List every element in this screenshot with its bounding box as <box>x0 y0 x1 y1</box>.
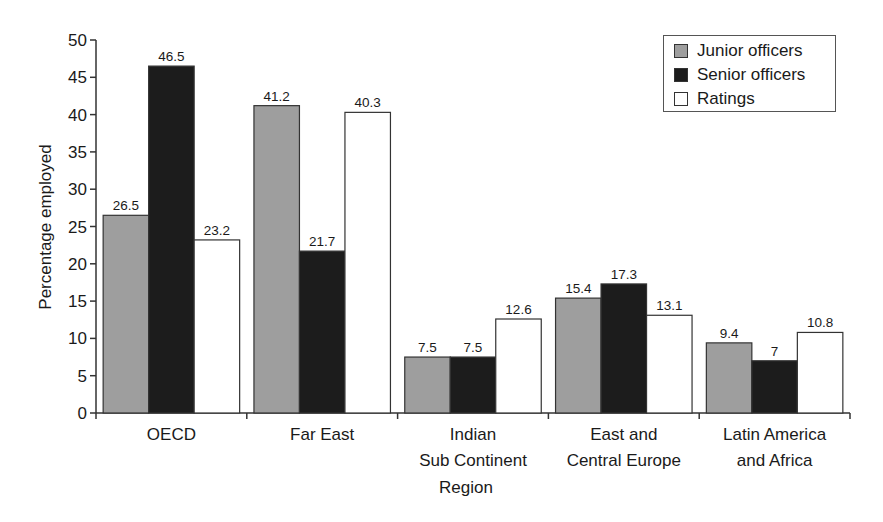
legend-label: Ratings <box>697 89 755 109</box>
bar-value-label: 41.2 <box>264 89 290 104</box>
legend-item-junior-officers: Junior officers <box>674 41 803 61</box>
bar-value-label: 21.7 <box>309 234 335 249</box>
bar-value-label: 15.4 <box>565 281 592 296</box>
y-tick-label: 15 <box>68 292 87 311</box>
y-tick-label: 45 <box>68 68 87 87</box>
y-tick-label: 5 <box>78 367 87 386</box>
bar-ratings <box>194 240 240 413</box>
x-axis <box>96 413 850 419</box>
bar-ratings <box>797 332 843 413</box>
legend-label: Junior officers <box>697 41 803 61</box>
bar-value-label: 23.2 <box>204 223 230 238</box>
bar-value-label: 12.6 <box>505 302 531 317</box>
category-label: Far East <box>290 425 355 444</box>
bar-value-label: 17.3 <box>611 267 637 282</box>
bar-value-label: 40.3 <box>355 95 381 110</box>
bar-senior-officers <box>299 251 345 413</box>
bar-junior-officers <box>706 343 752 413</box>
y-tick-label: 20 <box>68 255 87 274</box>
y-tick-label: 50 <box>68 31 87 50</box>
bar-senior-officers <box>450 357 496 413</box>
y-tick-label: 10 <box>68 329 87 348</box>
bar-junior-officers <box>103 215 148 413</box>
category-label: Latin America <box>723 425 827 444</box>
legend-item-ratings: Ratings <box>674 89 755 109</box>
bars <box>103 66 843 413</box>
legend-item-senior-officers: Senior officers <box>674 65 805 85</box>
category-label: Central Europe <box>567 451 681 470</box>
legend-label: Senior officers <box>697 65 805 85</box>
bar-senior-officers <box>149 66 195 413</box>
y-tick-label: 40 <box>68 106 87 125</box>
bar-value-label: 13.1 <box>656 298 682 313</box>
category-labels: OECDFar EastIndianSub ContinentEast andC… <box>147 425 827 470</box>
category-label: Indian <box>450 425 496 444</box>
bar-ratings <box>345 112 391 413</box>
y-axis: 05101520253035404550 <box>68 31 96 423</box>
bar-junior-officers <box>556 298 602 413</box>
category-label: Sub Continent <box>419 451 527 470</box>
bar-value-label: 7.5 <box>464 340 483 355</box>
bar-junior-officers <box>254 106 300 413</box>
legend-swatch-junior-icon <box>674 44 688 58</box>
category-label: East and <box>590 425 657 444</box>
bar-senior-officers <box>752 361 798 413</box>
bar-value-label: 10.8 <box>807 315 833 330</box>
y-tick-label: 25 <box>68 218 87 237</box>
bar-value-label: 26.5 <box>113 198 139 213</box>
bar-value-label: 46.5 <box>158 49 184 64</box>
bar-value-label: 9.4 <box>720 326 739 341</box>
bar-ratings <box>647 315 693 413</box>
bar-junior-officers <box>405 357 451 413</box>
bar-ratings <box>496 319 542 413</box>
category-label: and Africa <box>737 451 813 470</box>
bar-senior-officers <box>601 284 647 413</box>
category-label: OECD <box>147 425 196 444</box>
y-tick-label: 35 <box>68 143 87 162</box>
bar-value-label: 7.5 <box>418 340 437 355</box>
y-axis-title: Percentage employed <box>36 144 55 309</box>
legend-swatch-ratings-icon <box>674 92 688 106</box>
bar-value-label: 7 <box>771 344 779 359</box>
legend: Junior officers Senior officers Ratings <box>663 35 836 112</box>
x-axis-title: Region <box>439 478 493 497</box>
y-tick-label: 30 <box>68 180 87 199</box>
legend-swatch-senior-icon <box>674 68 688 82</box>
y-tick-label: 0 <box>78 404 87 423</box>
